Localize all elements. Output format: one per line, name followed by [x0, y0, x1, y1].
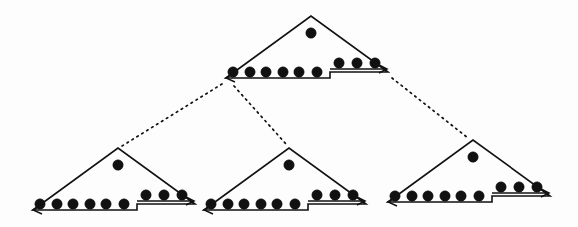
- node-child-right-ledge-dots: [496, 182, 542, 192]
- dot: [256, 199, 266, 209]
- dot: [532, 182, 542, 192]
- dot: [68, 199, 78, 209]
- dot: [474, 191, 484, 201]
- dot: [35, 199, 45, 209]
- dot: [330, 190, 340, 200]
- dot: [294, 67, 304, 77]
- dot: [423, 191, 433, 201]
- node-child-left-ledge-dots: [141, 190, 187, 200]
- dot: [440, 191, 450, 201]
- dot: [496, 182, 506, 192]
- node-child-middle-ledge-dots: [312, 190, 358, 200]
- dot: [52, 199, 62, 209]
- dot: [312, 67, 322, 77]
- node-child-middle-lower-dots: [206, 199, 300, 209]
- dot: [245, 67, 255, 77]
- diagram-canvas: [0, 0, 578, 227]
- dot: [312, 190, 322, 200]
- dot: [272, 199, 282, 209]
- dot: [407, 191, 417, 201]
- dot: [456, 191, 466, 201]
- dot: [177, 190, 187, 200]
- dot: [223, 199, 233, 209]
- dot: [390, 191, 400, 201]
- edge-root-to-child-right: [392, 78, 468, 138]
- dot: [119, 199, 129, 209]
- node-root[interactable]: [226, 16, 388, 82]
- node-child-middle-apex-dot: [284, 160, 294, 170]
- dot: [334, 58, 344, 68]
- edge-root-to-child-left: [122, 84, 222, 146]
- dot: [352, 58, 362, 68]
- dot: [206, 199, 216, 209]
- node-root-ledge-dots: [334, 58, 380, 68]
- node-child-left-apex-dot: [113, 160, 123, 170]
- dot: [514, 182, 524, 192]
- edge-root-to-child-middle: [234, 86, 286, 144]
- dot: [85, 199, 95, 209]
- dot: [261, 67, 271, 77]
- dot: [101, 199, 111, 209]
- dot: [348, 190, 358, 200]
- node-child-middle[interactable]: [204, 148, 366, 214]
- tree-diagram: [0, 0, 578, 227]
- node-child-left-lower-dots: [35, 199, 129, 209]
- node-child-left[interactable]: [33, 148, 195, 214]
- node-root-lower-dots: [228, 67, 322, 77]
- dot: [370, 58, 380, 68]
- dot: [290, 199, 300, 209]
- dot: [239, 199, 249, 209]
- node-child-right[interactable]: [388, 140, 550, 206]
- node-child-right-lower-dots: [390, 191, 484, 201]
- dot: [141, 190, 151, 200]
- dot: [159, 190, 169, 200]
- dot: [278, 67, 288, 77]
- edge-group: [122, 78, 468, 146]
- node-root-apex-dot: [306, 28, 316, 38]
- dot: [228, 67, 238, 77]
- node-child-right-apex-dot: [468, 152, 478, 162]
